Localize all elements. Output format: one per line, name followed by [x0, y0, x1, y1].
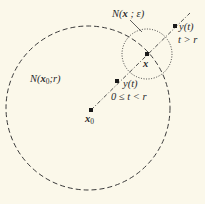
x0-label: x0: [85, 114, 94, 126]
big-circle-label: N(x0;r): [30, 74, 61, 86]
y-outer-label: y(t): [179, 22, 194, 33]
small-circle-label: N(x ; ε): [112, 9, 144, 20]
point-y-outer: [173, 24, 177, 28]
point-x0: [89, 108, 93, 112]
diagram-canvas: [0, 0, 205, 204]
y-inner-condition: 0 ≤ t < r: [111, 92, 147, 103]
big-neighborhood-circle: [6, 26, 170, 190]
y-inner-label: y(t): [123, 79, 138, 90]
y-outer-condition: t > r: [178, 35, 197, 46]
diagram: N(x ; ε) y(t) t > r x N(x0;r) y(t) 0 ≤ t…: [0, 0, 205, 204]
small-circle-label-leader: [130, 20, 142, 32]
point-y-inner: [115, 79, 119, 83]
point-x: [145, 52, 149, 56]
x-label: x: [143, 59, 148, 70]
